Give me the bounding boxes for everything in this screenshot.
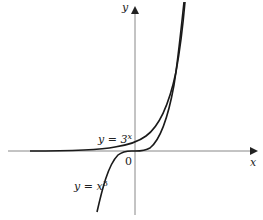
graph-canvas: y x 0 y = 3x y = x3 bbox=[0, 0, 263, 220]
origin-label: 0 bbox=[125, 155, 132, 168]
y-axis-label: y bbox=[121, 1, 129, 14]
exponential-label: y = 3x bbox=[97, 132, 132, 146]
x-axis-label: x bbox=[250, 156, 257, 169]
cubic-label: y = x3 bbox=[73, 179, 108, 193]
cubic-curve bbox=[97, 2, 184, 212]
